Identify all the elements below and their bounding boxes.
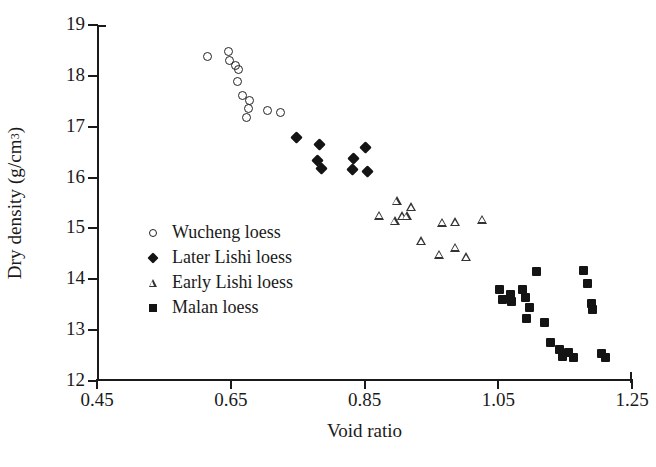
legend-marker-icon [142, 272, 164, 294]
filled-square-icon [149, 304, 157, 312]
x-axis-label: Void ratio [97, 420, 632, 442]
y-axis-tick-label: 16 [45, 167, 85, 186]
y-axis-tick-label: 14 [45, 268, 85, 287]
scatter-chart-figure: Dry density (g/cm3) 19181716151413120.45… [0, 0, 656, 467]
y-axis-tick-label: 17 [45, 116, 85, 135]
legend-item: Wucheng loess [142, 220, 293, 245]
data-point [495, 285, 504, 294]
data-point [434, 250, 444, 259]
data-point [477, 215, 487, 224]
data-point [588, 305, 597, 314]
data-point [245, 96, 254, 105]
x-axis-tick-label: 0.85 [335, 390, 395, 409]
y-axis-label-text: Dry density (g/cm [4, 139, 26, 279]
data-point [276, 108, 285, 117]
data-point [263, 106, 272, 115]
data-point [374, 211, 384, 220]
open-triangle-icon [149, 279, 157, 287]
data-point [402, 211, 412, 220]
axis-cap-top [97, 25, 106, 27]
legend-item-label: Malan loess [164, 295, 258, 320]
data-point [461, 252, 471, 261]
data-point [601, 353, 610, 362]
y-axis-label-exponent: 3 [8, 133, 23, 139]
y-axis-label: Dry density (g/cm3) [0, 25, 30, 381]
y-axis-tick-label: 19 [45, 14, 85, 33]
legend-marker-icon [142, 222, 164, 244]
plot-area [97, 25, 632, 381]
y-axis-tick-label: 15 [45, 217, 85, 236]
y-axis-tick [88, 278, 98, 280]
data-point [242, 113, 251, 122]
x-axis-tick [631, 379, 633, 389]
y-axis-tick [88, 24, 98, 26]
y-axis-tick-label: 13 [45, 319, 85, 338]
data-point [450, 217, 460, 226]
legend-item: Early Lishi loess [142, 270, 293, 295]
data-point [569, 353, 578, 362]
legend-item: Later Lishi loess [142, 245, 293, 270]
y-axis-tick [88, 177, 98, 179]
y-axis-tick [88, 329, 98, 331]
data-point [392, 196, 402, 205]
data-point [406, 202, 416, 211]
y-axis-tick-label: 12 [45, 370, 85, 389]
open-circle-icon [149, 229, 157, 237]
data-point [525, 303, 534, 312]
x-axis-tick [96, 379, 98, 389]
data-point [244, 104, 253, 113]
data-point [416, 236, 426, 245]
data-point [521, 293, 530, 302]
x-axis-tick-label: 1.05 [468, 390, 528, 409]
legend-marker-icon [142, 297, 164, 319]
x-axis-tick [364, 379, 366, 389]
chart-legend: Wucheng loessLater Lishi loessEarly Lish… [142, 220, 293, 320]
x-axis-tick [497, 379, 499, 389]
legend-item-label: Early Lishi loess [164, 270, 293, 295]
data-point [540, 318, 549, 327]
data-point [583, 279, 592, 288]
data-point [437, 218, 447, 227]
y-axis-label-tail: ) [4, 127, 26, 133]
y-axis-tick [88, 227, 98, 229]
data-point [546, 338, 555, 347]
data-point [224, 47, 233, 56]
y-axis-tick [88, 126, 98, 128]
data-point [532, 267, 541, 276]
data-point [579, 266, 588, 275]
x-axis-tick [230, 379, 232, 389]
y-axis-tick-label: 18 [45, 65, 85, 84]
filled-diamond-icon [147, 252, 158, 263]
legend-item-label: Wucheng loess [164, 220, 281, 245]
data-point [507, 297, 516, 306]
x-axis-tick-label: 1.25 [602, 390, 656, 409]
x-axis-tick-label: 0.45 [67, 390, 127, 409]
y-axis-tick [88, 75, 98, 77]
legend-marker-icon [142, 247, 164, 269]
data-point [203, 52, 212, 61]
data-point [450, 243, 460, 252]
legend-item-label: Later Lishi loess [164, 245, 292, 270]
legend-item: Malan loess [142, 295, 293, 320]
data-point [522, 314, 531, 323]
x-axis-tick-label: 0.65 [201, 390, 261, 409]
